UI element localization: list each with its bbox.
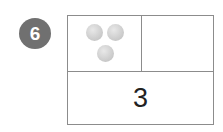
counter-dot (86, 24, 103, 41)
whole-value: 3 (68, 72, 213, 124)
counter-dot (97, 45, 114, 62)
top-right-cell[interactable] (142, 16, 213, 71)
part-whole-box: 3 (67, 15, 214, 125)
problem-number-badge: 6 (19, 18, 51, 49)
counter-dot (107, 24, 124, 41)
